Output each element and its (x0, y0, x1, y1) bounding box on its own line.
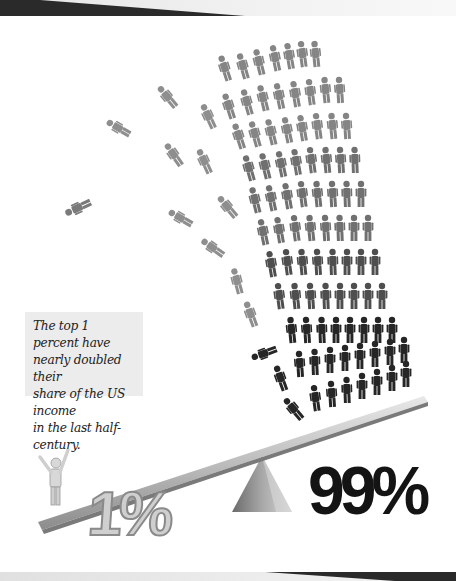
ninety-nine-percent-label: 99% (308, 450, 425, 530)
caption-line-4: in the last half-century. (33, 420, 137, 454)
caption-line-2: nearly doubled their (33, 352, 137, 386)
celebrating-person-icon (40, 450, 68, 505)
caption-line-1: The top 1 percent have (33, 318, 137, 352)
bottom-dark-wedge (0, 572, 456, 581)
caption-box: The top 1 percent have nearly doubled th… (25, 312, 143, 396)
one-percent-label: 1% (86, 478, 173, 549)
caption-line-3: share of the US income (33, 386, 137, 420)
